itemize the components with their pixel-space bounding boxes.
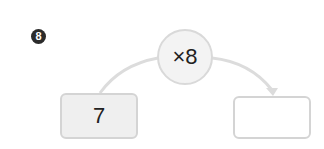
arrowhead-icon: [266, 88, 278, 96]
input-value: 7: [93, 103, 105, 129]
problem-number-badge: 8: [31, 29, 46, 44]
answer-box[interactable]: [233, 96, 311, 139]
operator-label: ×8: [172, 44, 197, 70]
operator-circle: ×8: [157, 29, 213, 85]
input-box: 7: [60, 93, 138, 139]
